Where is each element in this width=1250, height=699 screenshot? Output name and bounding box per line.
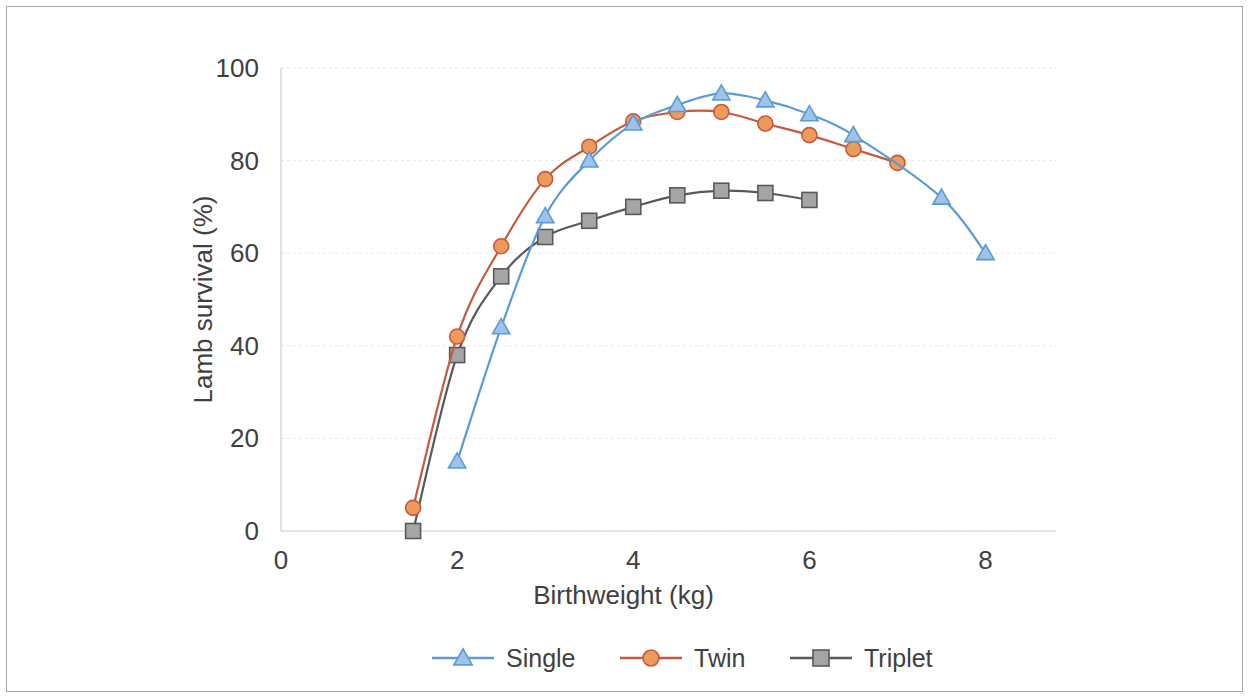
data-point-single-2 xyxy=(537,208,554,223)
x-tick-label: 6 xyxy=(802,545,816,575)
gridlines xyxy=(281,68,1056,531)
data-point-single-6 xyxy=(713,85,730,100)
y-axis-title: Lamb survival (%) xyxy=(188,195,218,403)
data-point-triplet-4 xyxy=(582,213,597,228)
data-point-triplet-0 xyxy=(406,524,421,539)
data-point-twin-10 xyxy=(846,142,861,157)
series-line-single xyxy=(457,93,985,461)
x-tick-label: 4 xyxy=(626,545,640,575)
data-point-single-8 xyxy=(801,106,818,121)
x-tick-label: 0 xyxy=(274,545,288,575)
y-tick-label: 0 xyxy=(245,516,259,546)
y-tick-label: 100 xyxy=(216,53,259,83)
y-tick-label: 80 xyxy=(230,146,259,176)
legend-marker-triplet xyxy=(813,650,829,666)
data-point-single-1 xyxy=(493,319,510,334)
legend-label-triplet: Triplet xyxy=(864,644,933,672)
series-twin xyxy=(406,104,905,515)
data-point-twin-9 xyxy=(802,128,817,143)
x-axis-title: Birthweight (kg) xyxy=(533,580,714,610)
legend-item-single[interactable]: Single xyxy=(432,644,576,672)
chart-legend: SingleTwinTriplet xyxy=(432,644,933,672)
data-point-triplet-3 xyxy=(538,229,553,244)
series-line-twin xyxy=(413,111,897,508)
legend-label-single: Single xyxy=(506,644,576,672)
series-single xyxy=(449,85,995,468)
data-point-twin-0 xyxy=(406,500,421,515)
legend-item-twin[interactable]: Twin xyxy=(620,644,745,672)
x-tick-label: 8 xyxy=(978,545,992,575)
legend-marker-twin xyxy=(643,650,659,666)
chart-figure: 02040608010002468Birthweight (kg)Lamb su… xyxy=(0,0,1250,699)
x-tick-label: 2 xyxy=(450,545,464,575)
y-tick-label: 60 xyxy=(230,238,259,268)
data-point-twin-8 xyxy=(758,116,773,131)
data-point-triplet-5 xyxy=(626,199,641,214)
legend-item-triplet[interactable]: Triplet xyxy=(790,644,933,672)
data-point-triplet-2 xyxy=(494,269,509,284)
legend-label-twin: Twin xyxy=(694,644,745,672)
data-point-twin-1 xyxy=(450,329,465,344)
x-axis-tick-labels: 02468 xyxy=(274,545,993,575)
data-point-twin-7 xyxy=(714,104,729,119)
series-line-triplet xyxy=(413,191,809,531)
line-chart-canvas: 02040608010002468Birthweight (kg)Lamb su… xyxy=(0,0,1250,699)
data-point-triplet-8 xyxy=(758,186,773,201)
y-axis-tick-labels: 020406080100 xyxy=(216,53,259,546)
series-triplet xyxy=(406,183,817,538)
data-point-twin-3 xyxy=(538,172,553,187)
data-point-triplet-6 xyxy=(670,188,685,203)
data-point-twin-2 xyxy=(494,239,509,254)
y-tick-label: 20 xyxy=(230,423,259,453)
data-point-single-0 xyxy=(449,453,466,468)
y-tick-label: 40 xyxy=(230,331,259,361)
data-point-single-9 xyxy=(845,127,862,142)
data-point-triplet-7 xyxy=(714,183,729,198)
axes xyxy=(281,68,1056,531)
data-point-triplet-9 xyxy=(802,192,817,207)
data-point-single-11 xyxy=(977,245,994,260)
